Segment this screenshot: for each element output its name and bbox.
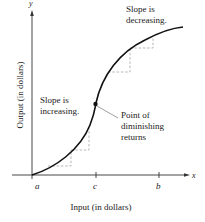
y-axis-arrow — [30, 10, 34, 16]
inflection-point — [93, 102, 97, 106]
point-label-line2: diminishing — [121, 121, 165, 131]
slope-increasing-line2: increasing. — [40, 106, 79, 116]
slope-decreasing-line1: Slope is — [126, 4, 155, 14]
point-label-line1: Point of — [121, 110, 150, 120]
leader-line — [97, 106, 118, 118]
slope-increasing-line1: Slope is — [40, 95, 69, 105]
x-axis-title: Input (in dollars) — [71, 202, 132, 212]
x-axis-var: x — [191, 171, 196, 180]
tick-label-b: b — [156, 181, 161, 191]
point-label-line3: returns — [121, 132, 146, 142]
tick-label-a: a — [35, 181, 40, 191]
y-axis-var: y — [28, 0, 33, 8]
slope-decreasing-line2: decreasing. — [126, 15, 167, 25]
tick-label-c: c — [93, 181, 97, 191]
y-axis-title: Output (in dollars) — [15, 62, 25, 129]
x-axis-arrow — [184, 173, 190, 177]
diminishing-returns-diagram: y x a c b Input (in dollars) Output (in … — [0, 0, 205, 222]
